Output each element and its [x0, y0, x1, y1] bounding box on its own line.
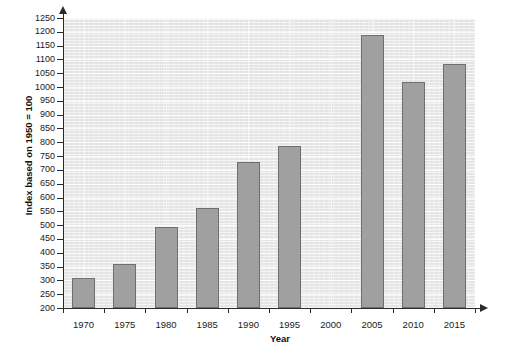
y-axis-tick — [57, 184, 63, 185]
y-axis-arrowhead — [59, 6, 67, 14]
x-axis-tick — [269, 308, 270, 313]
x-axis-tick-label: 2005 — [361, 319, 382, 330]
y-axis-tick-label: 350 — [40, 262, 55, 271]
y-axis-tick — [57, 211, 63, 212]
y-axis-tick-label: 900 — [40, 110, 55, 119]
bar — [196, 208, 219, 308]
y-axis-tick-label: 250 — [40, 290, 55, 299]
bar — [402, 82, 425, 308]
x-axis-tick — [310, 308, 311, 313]
y-axis-tick-label: 750 — [40, 152, 55, 161]
x-axis-tick — [393, 308, 394, 313]
y-axis-tick-label: 850 — [40, 124, 55, 133]
x-axis-tick-label: 2015 — [444, 319, 465, 330]
x-axis-tick — [187, 308, 188, 313]
x-axis-arrowhead — [480, 304, 488, 312]
y-axis-tick-label: 1250 — [35, 14, 55, 23]
y-axis-tick-label: 1050 — [35, 69, 55, 78]
y-axis-tick-label: 450 — [40, 234, 55, 243]
x-axis-tick — [145, 308, 146, 313]
x-axis-tick-label: 1990 — [238, 319, 259, 330]
x-axis-tick-label: 2010 — [403, 319, 424, 330]
y-axis-tick-label: 1100 — [36, 55, 55, 64]
bar — [361, 35, 384, 308]
y-axis-tick-label: 400 — [40, 248, 55, 257]
x-axis-line — [63, 308, 481, 309]
y-axis-tick-label: 500 — [40, 221, 55, 230]
vertical-gridline — [331, 18, 332, 308]
y-axis-tick — [57, 87, 63, 88]
bar-chart-figure: 2002503003504004505005506006507007508008… — [0, 0, 516, 351]
x-axis-tick-label: 1985 — [197, 319, 218, 330]
y-axis-tick-label: 1200 — [35, 27, 55, 36]
x-axis-tick — [63, 308, 64, 313]
y-axis-tick-label: 1150 — [36, 41, 55, 50]
x-axis-tick — [228, 308, 229, 313]
y-axis-tick-label: 550 — [40, 207, 55, 216]
y-axis-tick-label: 1000 — [35, 83, 55, 92]
x-axis-tick — [104, 308, 105, 313]
y-axis-tick — [57, 32, 63, 33]
x-axis-tick — [434, 308, 435, 313]
y-axis-tick-label: 600 — [40, 193, 55, 202]
x-axis-tick-label: 1995 — [279, 319, 300, 330]
y-axis-tick-label: 300 — [40, 276, 55, 285]
vertical-gridline — [84, 18, 85, 308]
y-axis-tick — [57, 128, 63, 129]
y-axis-tick — [57, 225, 63, 226]
y-axis-tick — [57, 267, 63, 268]
y-axis-tick-label: 700 — [40, 165, 55, 174]
y-axis-tick — [57, 142, 63, 143]
bar — [278, 146, 301, 308]
x-axis-tick — [475, 308, 476, 313]
y-axis-tick — [57, 73, 63, 74]
bar — [155, 227, 178, 308]
x-axis-title: Year — [22, 333, 516, 344]
y-axis-tick — [57, 46, 63, 47]
y-axis-tick-label: 950 — [40, 96, 55, 105]
y-axis-tick — [57, 239, 63, 240]
plot-area — [63, 18, 475, 308]
y-axis-tick — [57, 198, 63, 199]
y-axis-tick — [57, 294, 63, 295]
bar — [113, 264, 136, 308]
y-axis-tick — [57, 101, 63, 102]
y-axis-tick — [57, 156, 63, 157]
y-axis-tick — [57, 18, 63, 19]
x-axis-tick-label: 1980 — [155, 319, 176, 330]
y-axis-tick-label: 200 — [40, 304, 55, 313]
x-axis-tick — [351, 308, 352, 313]
y-axis-tick — [57, 115, 63, 116]
y-axis-tick — [57, 280, 63, 281]
bar — [237, 162, 260, 308]
y-axis-title: Index based on 1950 = 100 — [23, 66, 34, 246]
bar — [443, 64, 466, 308]
x-axis-tick-label: 1975 — [114, 319, 135, 330]
x-axis-tick-label: 2000 — [320, 319, 341, 330]
x-axis-tick-label: 1970 — [73, 319, 94, 330]
y-axis-tick — [57, 59, 63, 60]
y-axis-tick-label: 800 — [40, 138, 55, 147]
y-axis-tick-label: 650 — [40, 179, 55, 188]
y-axis-tick — [57, 170, 63, 171]
y-axis-line — [63, 12, 64, 309]
y-axis-tick — [57, 253, 63, 254]
bar — [72, 278, 95, 308]
